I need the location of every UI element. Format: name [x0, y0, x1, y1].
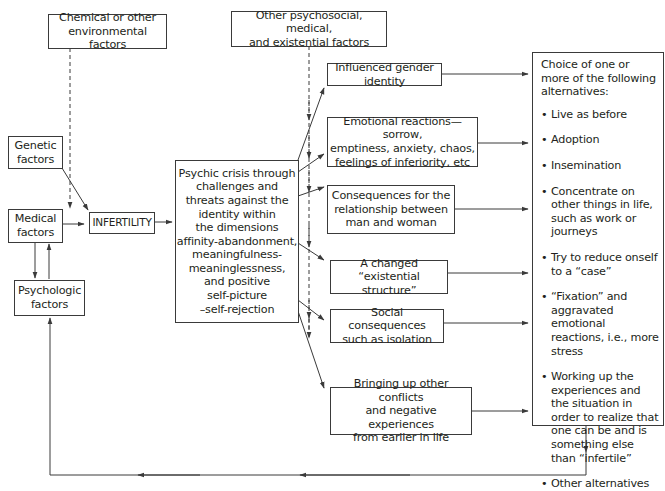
- edge-crisis-emotional: [298, 154, 324, 172]
- node-text: factors: [15, 226, 56, 240]
- choice-item: Try to reduce onself to a “case”: [541, 251, 659, 278]
- node-earlier-conflicts: Bringing up other conflictsand negative …: [330, 387, 472, 435]
- node-text: meaningfulness-: [177, 248, 297, 262]
- node-text: Genetic: [15, 139, 57, 153]
- node-text: Influenced gender identity: [328, 61, 441, 88]
- node-text: Consequences for the: [332, 189, 450, 203]
- node-text: INFERTILITY: [92, 216, 151, 230]
- node-text: –self-rejection: [177, 303, 297, 317]
- node-text: challenges and: [177, 180, 297, 194]
- node-text: the dimensions: [177, 221, 297, 235]
- edge-crisis-existential: [298, 243, 324, 260]
- node-text: and existential factors: [232, 36, 386, 50]
- edge-crisis-conflicts: [298, 311, 324, 388]
- node-text: environmental factors: [49, 25, 166, 52]
- choice-heading: Choice of one or more of the following a…: [541, 58, 659, 99]
- node-text: factors: [15, 153, 57, 167]
- node-choice-alternatives: Choice of one or more of the following a…: [532, 52, 664, 426]
- node-text: Emotional reactions—sorrow,: [328, 115, 477, 142]
- node-social-consequences: Social consequencessuch as isolation: [330, 309, 444, 343]
- node-other-factors: Other psychosocial, medical,and existent…: [231, 11, 387, 47]
- node-chemical-factors: Chemical or otherenvironmental factors: [48, 14, 167, 49]
- node-emotional-reactions: Emotional reactions—sorrow,emptiness, an…: [327, 117, 478, 167]
- edge-crisis-gender: [298, 88, 324, 160]
- node-existential-structure: A changed “existentialstructure”: [330, 260, 448, 294]
- node-text: threats against the: [177, 194, 297, 208]
- node-text: Medical: [15, 212, 56, 226]
- choice-item: Working up the experiences and the situa…: [541, 370, 659, 465]
- node-text: Other psychosocial, medical,: [232, 9, 386, 36]
- node-genetic-factors: Geneticfactors: [8, 136, 63, 169]
- node-text: identity within: [177, 208, 297, 222]
- edge-crisis-social: [298, 300, 324, 320]
- choice-item: Concentrate on other things in life, suc…: [541, 185, 659, 239]
- node-text: and positive: [177, 275, 297, 289]
- node-text: such as isolation: [331, 333, 443, 347]
- node-text: factors: [18, 298, 81, 312]
- node-psychologic-factors: Psychologicfactors: [14, 280, 85, 316]
- node-text: Psychic crisis through: [177, 167, 297, 181]
- choice-list: Live as before Adoption Insemination Con…: [541, 108, 659, 491]
- node-text: meaninglessness,: [177, 262, 297, 276]
- node-text: man and woman: [332, 216, 450, 230]
- choice-item: Live as before: [541, 108, 659, 122]
- choice-item: Adoption: [541, 133, 659, 147]
- node-text: and negative experiences: [331, 404, 471, 431]
- edge-genetic-infertility: [62, 168, 88, 210]
- node-text: from earlier in life: [331, 431, 471, 445]
- choice-item: Insemination: [541, 159, 659, 173]
- node-text: Social consequences: [331, 306, 443, 333]
- node-text: Chemical or other: [49, 11, 166, 25]
- edge-crisis-relationship: [298, 187, 324, 196]
- node-text: relationship between: [332, 203, 450, 217]
- node-text: self-picture: [177, 289, 297, 303]
- edge-feedback-bottom: [50, 452, 586, 475]
- choice-item: Other alternatives: [541, 477, 659, 491]
- node-psychic-crisis: Psychic crisis through challenges and th…: [175, 160, 299, 323]
- node-text: Psychologic: [18, 284, 81, 298]
- node-relationship-consequences: Consequences for therelationship between…: [327, 185, 455, 234]
- choice-item: “Fixation” and aggravated emotional reac…: [541, 290, 659, 358]
- node-medical-factors: Medicalfactors: [8, 209, 63, 243]
- node-text: structure”: [331, 284, 447, 298]
- node-text: emptiness, anxiety, chaos,: [328, 142, 477, 156]
- node-gender-identity: Influenced gender identity: [327, 63, 442, 86]
- node-text: Bringing up other conflicts: [331, 377, 471, 404]
- node-text: A changed “existential: [331, 257, 447, 284]
- node-text: affinity-abandonment,: [177, 235, 297, 249]
- node-text: feelings of inferiority, etc: [328, 156, 477, 170]
- node-infertility: INFERTILITY: [89, 212, 155, 234]
